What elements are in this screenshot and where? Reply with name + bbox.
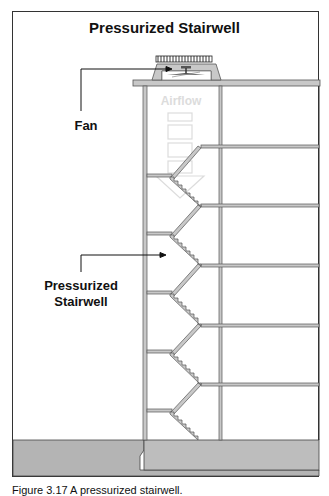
stairwell-label-line1: Pressurized [36, 278, 126, 293]
stairwell-leader-arrow [81, 253, 166, 273]
airflow-label: Airflow [158, 94, 204, 109]
landings [147, 174, 172, 412]
ground-slab [13, 440, 319, 476]
fan-label: Fan [66, 118, 106, 133]
figure-caption: Figure 3.17 A pressurized stairwell. [12, 484, 183, 496]
stair-flights [170, 146, 201, 440]
roof-slab [133, 80, 320, 86]
stairwell-label-line2: Stairwell [36, 294, 126, 309]
